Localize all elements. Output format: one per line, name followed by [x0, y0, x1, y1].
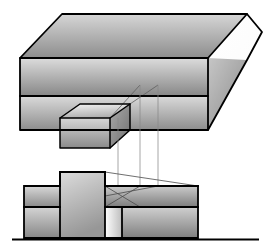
engineering-drawing-canvas — [0, 0, 271, 249]
elevation-view-group — [12, 172, 259, 240]
elev-notch-light-strip — [105, 207, 122, 238]
elev-left-block-lower — [24, 207, 60, 238]
isometric-view-group — [20, 14, 262, 148]
elev-right-block-lower — [122, 207, 198, 238]
iso-tab-front-face — [60, 118, 110, 148]
elev-left-block-upper — [24, 186, 60, 207]
elev-right-block-upper — [105, 186, 198, 207]
iso-front-upper-band — [20, 58, 208, 96]
drawing-svg — [0, 0, 271, 249]
elev-center-tall-block — [60, 172, 105, 238]
